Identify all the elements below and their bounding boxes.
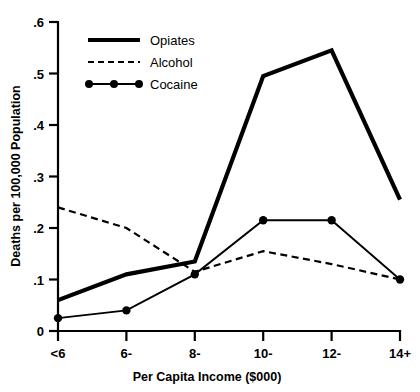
chart-legend: Opiates Alcohol Cocaine xyxy=(85,33,198,92)
y-tick-label-6: .6 xyxy=(33,15,44,30)
x-axis-title: Per Capita Income ($000) xyxy=(133,370,282,384)
data-point-cocaine xyxy=(191,270,199,278)
data-point-cocaine xyxy=(259,216,267,224)
data-point-cocaine xyxy=(122,306,130,314)
data-point-cocaine xyxy=(396,275,404,283)
y-tick-label-5: .5 xyxy=(33,67,44,82)
legend-marker-cocaine-2 xyxy=(135,80,143,88)
y-tick-label-4: .4 xyxy=(33,118,45,133)
x-tick-label-1: 6- xyxy=(121,346,133,361)
series-group xyxy=(54,50,404,322)
series-line-cocaine xyxy=(58,220,400,318)
y-tick-label-1: .1 xyxy=(33,273,44,288)
x-tick-label-4: 12- xyxy=(322,346,341,361)
x-axis-ticks xyxy=(58,331,400,341)
legend-label-opiates: Opiates xyxy=(150,33,195,48)
y-axis-title: Deaths per 100,000 Population xyxy=(9,85,23,266)
y-tick-label-2: .2 xyxy=(33,221,44,236)
y-axis-ticks xyxy=(49,22,58,331)
x-tick-label-5: 14+ xyxy=(389,346,411,361)
chart-figure: .6 .5 .4 .3 .2 .1 0 <6 6- 8- 10- 12- 14+… xyxy=(0,0,420,392)
y-tick-label-3: .3 xyxy=(33,170,44,185)
legend-label-alcohol: Alcohol xyxy=(150,55,193,70)
legend-marker-cocaine-1 xyxy=(110,80,118,88)
data-point-cocaine xyxy=(327,216,335,224)
series-line-opiates xyxy=(58,50,400,300)
data-point-cocaine xyxy=(54,314,62,322)
series-line-alcohol xyxy=(58,207,400,279)
x-tick-label-0: <6 xyxy=(51,346,66,361)
y-tick-label-0: 0 xyxy=(37,324,44,339)
legend-marker-cocaine-0 xyxy=(85,80,93,88)
x-tick-label-3: 10- xyxy=(254,346,273,361)
legend-label-cocaine: Cocaine xyxy=(150,77,198,92)
chart-plot-area: .6 .5 .4 .3 .2 .1 0 <6 6- 8- 10- 12- 14+… xyxy=(0,0,420,392)
x-tick-label-2: 8- xyxy=(189,346,201,361)
